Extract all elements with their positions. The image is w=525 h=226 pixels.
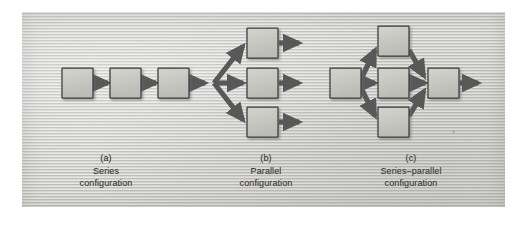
caption-series-parallel-label: (c) <box>336 152 486 165</box>
caption-series-parallel-name: Series–parallel <box>336 165 486 178</box>
diagram-artwork <box>0 0 525 226</box>
scan-speck <box>452 131 455 133</box>
diagram-series-parallel <box>330 26 478 137</box>
caption-series-label: (a) <box>36 152 176 165</box>
caption-series-parallel-text: configuration <box>336 177 486 190</box>
figure-canvas: (a) Series configuration (b) Parallel co… <box>0 0 525 226</box>
diagram-parallel <box>214 28 299 137</box>
series-parallel-blocks <box>330 26 459 137</box>
diagram-series <box>62 68 205 98</box>
block-sp-bottom <box>378 107 409 137</box>
block-sp-input <box>330 68 361 98</box>
series-parallel-diverge-arrows <box>362 50 375 116</box>
block-parallel-3 <box>247 107 278 137</box>
block-series-1 <box>62 68 93 98</box>
block-series-3 <box>158 68 189 98</box>
caption-parallel-text: configuration <box>196 177 336 190</box>
caption-series: (a) Series configuration <box>36 152 176 190</box>
series-parallel-converge-arrows <box>409 50 425 116</box>
parallel-blocks <box>247 28 278 137</box>
block-parallel-1 <box>247 28 278 58</box>
block-sp-top <box>378 26 409 56</box>
block-sp-middle <box>378 68 409 98</box>
caption-series-parallel: (c) Series–parallel configuration <box>336 152 486 190</box>
block-sp-output <box>428 68 459 98</box>
caption-series-name: Series <box>36 165 176 178</box>
caption-parallel: (b) Parallel configuration <box>196 152 336 190</box>
series-blocks <box>62 68 189 98</box>
parallel-output-arrows <box>279 43 299 122</box>
block-parallel-2 <box>247 68 278 98</box>
block-series-2 <box>110 68 141 98</box>
caption-parallel-label: (b) <box>196 152 336 165</box>
caption-parallel-name: Parallel <box>196 165 336 178</box>
caption-series-text: configuration <box>36 177 176 190</box>
